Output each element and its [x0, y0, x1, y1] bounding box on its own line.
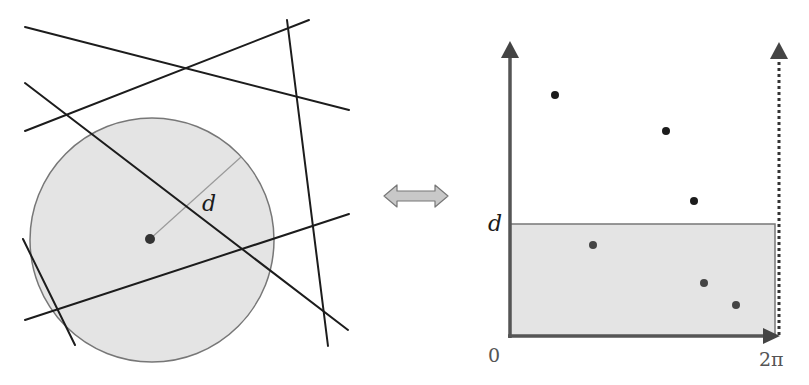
y-axis-label-d: d — [488, 211, 502, 236]
data-point — [700, 279, 708, 287]
y-axis-arrowhead-icon — [501, 41, 519, 58]
shaded-region — [510, 224, 775, 336]
line-4 — [287, 20, 328, 346]
data-point — [589, 241, 597, 249]
data-point — [551, 91, 559, 99]
boundary-arrowhead-icon — [770, 42, 788, 59]
left-panel: d — [23, 20, 349, 362]
double-headed-arrow-icon — [384, 185, 448, 207]
center-point — [145, 234, 155, 244]
data-point — [690, 197, 698, 205]
x-min-label: 0 — [488, 344, 500, 366]
data-point — [662, 127, 670, 135]
data-point — [732, 301, 740, 309]
radius-label: d — [202, 191, 216, 216]
points-outside — [551, 91, 698, 205]
right-panel: d 0 2π — [488, 41, 788, 370]
x-max-label: 2π — [759, 348, 784, 370]
diagram-canvas: d d 0 2π — [0, 0, 809, 385]
